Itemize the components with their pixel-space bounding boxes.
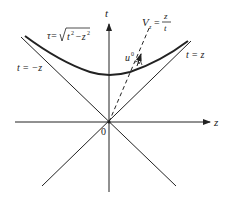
light-line-t-equals-minus-z	[21, 37, 176, 186]
z-axis-label: z	[213, 116, 219, 128]
t-equals-z-label: t = z	[186, 49, 205, 60]
svg-text:τ=: τ=	[47, 30, 57, 41]
t-axis-label: t	[105, 7, 109, 19]
svg-text:=: =	[154, 17, 160, 28]
origin-label: 0	[101, 126, 106, 137]
t-equals-minus-z-label: t = −z	[17, 62, 42, 73]
svg-text:−z: −z	[75, 31, 86, 42]
tau-label: τ= t 2 −z 2	[47, 28, 90, 42]
right-angle-dot	[138, 62, 140, 64]
svg-text:z: z	[163, 11, 168, 21]
spacetime-diagram: t z 0 t = z t = −z τ= t 2 −z 2 V z = z t…	[0, 0, 232, 205]
light-line-t-equals-z	[42, 41, 191, 186]
hyperbola-curve	[25, 36, 188, 75]
svg-text:0: 0	[131, 51, 134, 57]
velocity-label: V z = z t	[142, 11, 171, 33]
origin-point	[107, 120, 110, 123]
svg-text:z: z	[148, 24, 152, 30]
svg-text:u: u	[125, 52, 130, 63]
svg-text:2: 2	[87, 30, 90, 36]
four-velocity-label: u 0	[125, 51, 134, 63]
svg-text:2: 2	[71, 30, 74, 36]
svg-text:t: t	[67, 31, 70, 42]
svg-text:t: t	[164, 23, 167, 33]
